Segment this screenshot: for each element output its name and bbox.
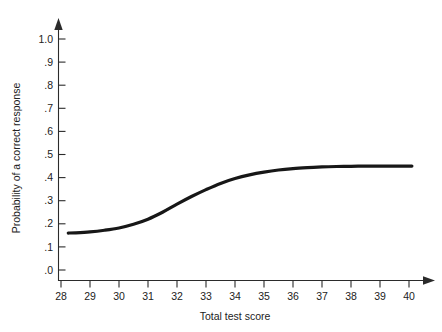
- x-axis: [59, 276, 436, 284]
- y-axis-ticks: [59, 39, 66, 270]
- arrow-right-icon: [423, 276, 435, 284]
- y-tick-label: .1: [44, 241, 53, 253]
- x-tick-label: 37: [316, 290, 328, 302]
- arrow-up-icon: [54, 18, 62, 30]
- x-tick-label: 35: [258, 290, 270, 302]
- x-tick-label: 39: [374, 290, 386, 302]
- y-tick-label: .9: [44, 56, 53, 68]
- x-tick-label: 29: [84, 290, 96, 302]
- y-tick-label: .5: [44, 148, 53, 160]
- x-axis-title: Total test score: [200, 310, 271, 322]
- x-tick-label: 28: [55, 290, 67, 302]
- x-tick-label: 38: [345, 290, 357, 302]
- probability-vs-test-score-chart: 1.0 .9 .8 .7 .6 .5 .4 .3 .2 .1 .0 Probab…: [0, 0, 442, 332]
- chart-container: 1.0 .9 .8 .7 .6 .5 .4 .3 .2 .1 .0 Probab…: [0, 0, 442, 332]
- x-tick-label: 31: [142, 290, 154, 302]
- y-tick-label: .0: [44, 264, 53, 276]
- x-tick-label: 40: [403, 290, 415, 302]
- x-axis-tick-labels: 28 29 30 31 32 33 34 35 36 37 38 39 40: [55, 290, 415, 302]
- item-characteristic-curve: [68, 166, 412, 233]
- y-tick-label: .8: [44, 79, 53, 91]
- x-tick-label: 36: [287, 290, 299, 302]
- x-tick-label: 30: [113, 290, 125, 302]
- y-tick-label: .7: [44, 102, 53, 114]
- x-tick-label: 32: [171, 290, 183, 302]
- y-tick-label: .2: [44, 217, 53, 229]
- y-tick-label: 1.0: [38, 33, 53, 45]
- x-axis-ticks: [61, 281, 409, 288]
- x-tick-label: 34: [229, 290, 241, 302]
- y-axis-tick-labels: 1.0 .9 .8 .7 .6 .5 .4 .3 .2 .1 .0: [38, 33, 53, 276]
- y-tick-label: .4: [44, 171, 53, 183]
- y-axis: [54, 18, 62, 281]
- x-tick-label: 33: [200, 290, 212, 302]
- y-tick-label: .3: [44, 194, 53, 206]
- y-tick-label: .6: [44, 125, 53, 137]
- y-axis-title: Probability of a correct response: [10, 83, 22, 234]
